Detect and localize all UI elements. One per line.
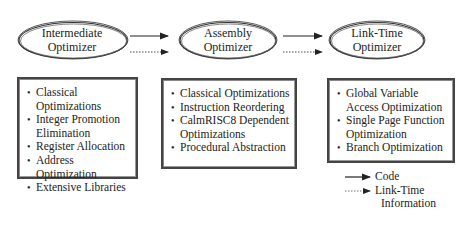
- legend-linktime-line-1: Link-Time: [375, 184, 436, 197]
- node-assembly-optimizer-label: Assembly Optimizer: [186, 26, 270, 54]
- list-item: Single Page FunctionOptimization: [337, 114, 449, 141]
- list-item: Branch Optimization: [337, 141, 449, 155]
- list-item: ClassicalOptimizations: [27, 86, 132, 113]
- label-line-1: Assembly: [186, 26, 270, 40]
- label-line-2: Optimizer: [335, 40, 419, 54]
- legend-linktime-line-2: Information: [375, 197, 436, 210]
- assembly-optimizations-list: Classical Optimizations Instruction Reor…: [163, 80, 295, 155]
- assembly-optimizations-box: Classical Optimizations Instruction Reor…: [161, 78, 297, 169]
- list-item: Address Optimization: [27, 154, 132, 181]
- list-item: Global VariableAccess Optimization: [337, 87, 449, 114]
- list-item: Extensive Libraries: [27, 181, 132, 195]
- label-line-1: Intermediate: [30, 26, 114, 40]
- node-intermediate-optimizer-label: Intermediate Optimizer: [30, 26, 114, 54]
- list-item: Register Allocation: [27, 140, 132, 154]
- intermediate-optimizations-list: ClassicalOptimizations Integer Promotion…: [19, 79, 136, 195]
- linktime-optimizations-box: Global VariableAccess Optimization Singl…: [327, 78, 455, 163]
- list-item: CalmRISC8 DependentOptimizations: [171, 114, 291, 141]
- list-item: Integer PromotionElimination: [27, 113, 132, 140]
- legend-linktime-label: Link-Time Information: [375, 184, 436, 210]
- list-item: Procedural Abstraction: [171, 141, 291, 155]
- list-item: Classical Optimizations: [171, 87, 291, 101]
- list-item: Instruction Reordering: [171, 101, 291, 115]
- node-linktime-optimizer-label: Link-Time Optimizer: [335, 26, 419, 54]
- legend-code-label: Code: [375, 170, 399, 183]
- label-line-1: Link-Time: [335, 26, 419, 40]
- label-line-2: Optimizer: [186, 40, 270, 54]
- label-line-2: Optimizer: [30, 40, 114, 54]
- intermediate-optimizations-box: ClassicalOptimizations Integer Promotion…: [17, 77, 138, 179]
- linktime-optimizations-list: Global VariableAccess Optimization Singl…: [329, 80, 453, 155]
